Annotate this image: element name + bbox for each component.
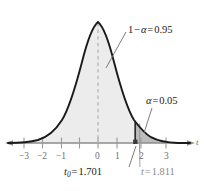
confidence-level-annotation: 1 − α = 0.95 bbox=[128, 25, 173, 36]
x-tick-label-2: 2 bbox=[139, 152, 144, 162]
critical-value: 1.701 bbox=[78, 166, 102, 177]
x-tick-label-1: 1 bbox=[115, 152, 120, 162]
test-statistic-label: t = 1.811 bbox=[141, 167, 175, 178]
confidence-region-fill bbox=[8, 22, 135, 143]
critical-value-label: t0 = 1.701 bbox=[64, 167, 102, 179]
x-tick-label-minus3: −3 bbox=[19, 152, 29, 162]
alpha-value: 0.05 bbox=[159, 95, 177, 106]
critical-value-marker bbox=[133, 140, 137, 144]
t-distribution-figure: −3 −2 −1 0 1 2 3 t 1 − α = 0.95 α = 0.05… bbox=[0, 0, 204, 191]
confidence-value: 0.95 bbox=[154, 24, 172, 35]
x-axis-label: t bbox=[196, 138, 199, 147]
critical-label-leader-line bbox=[129, 146, 136, 167]
x-tick-label-zero: 0 bbox=[95, 152, 100, 162]
alpha-annotation: α = 0.05 bbox=[146, 96, 178, 107]
x-tick-label-3: 3 bbox=[164, 152, 169, 162]
x-tick-label-minus1: −1 bbox=[56, 152, 66, 162]
x-tick-label-minus2: −2 bbox=[37, 152, 47, 162]
statistic-value: 1.811 bbox=[152, 166, 175, 177]
alpha-leader-line bbox=[144, 108, 152, 133]
